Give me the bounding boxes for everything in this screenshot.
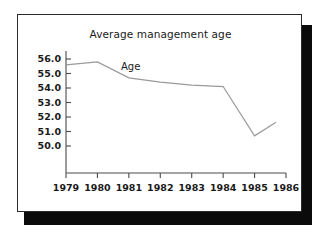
- y-axis-tick-label: 52.0: [38, 111, 62, 122]
- plot-area: 56.055.054.053.052.051.050.0 19791980198…: [18, 15, 303, 213]
- line-chart-svg: 56.055.054.053.052.051.050.0 19791980198…: [18, 15, 303, 213]
- x-axis-tick-label: 1985: [241, 182, 267, 193]
- y-axis-tick-label: 54.0: [38, 82, 62, 93]
- screenshot-root: Average management age 56.055.054.053.05…: [0, 0, 320, 232]
- y-axis-tick-label: 50.0: [38, 140, 62, 151]
- x-axis-tick-marks: [66, 173, 286, 178]
- y-axis-tick-label: 56.0: [38, 53, 62, 64]
- x-axis-tick-label: 1983: [178, 182, 204, 193]
- y-axis-tick-label: 51.0: [38, 126, 62, 137]
- y-axis-tick-marks: [66, 59, 71, 146]
- series-label-age: Age: [121, 61, 140, 72]
- series-line-age: [66, 62, 276, 136]
- x-axis-tick-label: 1980: [84, 182, 111, 193]
- x-axis-tick-label: 1986: [273, 182, 300, 193]
- x-axis-tick-label: 1984: [210, 182, 237, 193]
- x-axis-tick-label: 1982: [147, 182, 173, 193]
- y-axis-tick-label: 53.0: [38, 97, 62, 108]
- y-axis-tick-labels: 56.055.054.053.052.051.050.0: [38, 53, 62, 151]
- series-inline-labels: Age: [121, 61, 140, 72]
- x-axis-tick-label: 1979: [53, 182, 79, 193]
- x-axis-tick-label: 1981: [116, 182, 142, 193]
- y-axis-tick-label: 55.0: [38, 68, 62, 79]
- x-axis-tick-labels: 19791980198119821983198419851986: [53, 182, 300, 193]
- chart-card: Average management age 56.055.054.053.05…: [17, 14, 302, 212]
